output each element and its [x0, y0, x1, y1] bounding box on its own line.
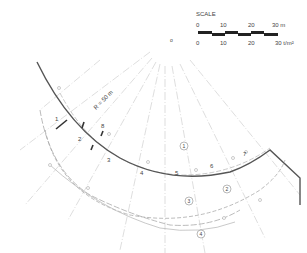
- scale-bottom-tick-0: 0: [196, 40, 200, 46]
- scale-top-tick-1: 10: [220, 22, 227, 28]
- circled-label-2: 2: [223, 185, 231, 193]
- scale-top-tick-3: 30 m: [272, 22, 285, 28]
- circled-label-4: 4: [197, 230, 205, 238]
- station-label-6: 6: [210, 163, 214, 169]
- circled-label-3: 3: [185, 197, 193, 205]
- station-label-4: 4: [140, 170, 144, 176]
- scale-top-tick-2: 20: [248, 22, 255, 28]
- svg-text:2: 2: [226, 186, 229, 192]
- scale-bottom-tick-3: 30 t/m²: [275, 40, 294, 46]
- station-label-2: 2: [78, 136, 82, 142]
- scale-bottom-tick-1: 10: [220, 40, 227, 46]
- radial-lines: [20, 52, 300, 253]
- station-label-3: 3: [107, 157, 111, 163]
- svg-text:3: 3: [188, 198, 191, 204]
- marker-label-8: 8: [101, 123, 105, 129]
- svg-text:4: 4: [200, 231, 203, 237]
- tick-marks: [56, 120, 103, 150]
- main-curve: [37, 62, 300, 205]
- center-label: o: [170, 37, 173, 43]
- circled-label-1: 1: [180, 142, 188, 150]
- scale-top-tick-0: 0: [196, 22, 200, 28]
- scale-bar: SCALE 0 10 20 30 m 0 10 20 30 t/m²: [196, 11, 294, 46]
- nodes: [49, 87, 262, 220]
- scale-title: SCALE: [196, 11, 216, 17]
- scale-bottom-tick-2: 20: [248, 40, 255, 46]
- diagram-canvas: SCALE 0 10 20 30 m 0 10 20 30 t/m² o: [0, 0, 307, 253]
- radius-label: R = 50 m: [92, 89, 114, 111]
- svg-text:1: 1: [183, 143, 186, 149]
